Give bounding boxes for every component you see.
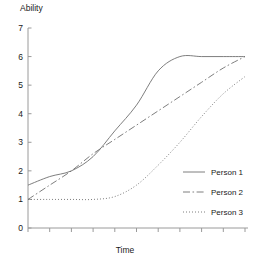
series-group bbox=[28, 56, 245, 200]
y-tick-label: 2 bbox=[18, 166, 23, 176]
chart-canvas: 01234567 Person 1Person 2Person 3 Abilit… bbox=[0, 0, 259, 263]
y-tick-label: 3 bbox=[18, 137, 23, 147]
axes-group: 01234567 bbox=[18, 23, 248, 233]
y-tick-label: 6 bbox=[18, 52, 23, 62]
y-tick-label: 7 bbox=[18, 23, 23, 33]
legend-label-2: Person 2 bbox=[211, 188, 244, 197]
y-axis-title: Ability bbox=[20, 3, 43, 13]
line-chart: 01234567 Person 1Person 2Person 3 Abilit… bbox=[0, 0, 259, 263]
series-line-2 bbox=[28, 57, 245, 200]
chart-legend: Person 1Person 2Person 3 bbox=[183, 168, 244, 217]
y-tick-label: 5 bbox=[18, 80, 23, 90]
series-line-3 bbox=[28, 77, 245, 200]
legend-label-3: Person 3 bbox=[211, 208, 244, 217]
legend-label-1: Person 1 bbox=[211, 168, 244, 177]
y-tick-label: 1 bbox=[18, 194, 23, 204]
y-tick-label: 0 bbox=[18, 223, 23, 233]
x-axis-title: Time bbox=[116, 245, 135, 255]
y-tick-label: 4 bbox=[18, 109, 23, 119]
